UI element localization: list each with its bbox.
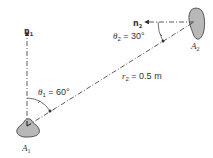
normal-n2-label: n2 bbox=[133, 19, 143, 29]
normal-n1-label: n1 bbox=[24, 27, 34, 37]
surface-a1-shape bbox=[17, 119, 40, 137]
angle2-arrowhead bbox=[162, 40, 165, 43]
angle1-arc bbox=[27, 98, 50, 111]
surface-a2-label: A2 bbox=[190, 41, 200, 52]
angle2-arc bbox=[158, 22, 163, 41]
surface-a1-label: A1 bbox=[21, 143, 31, 154]
angle1-label: θ1 = 60° bbox=[38, 87, 70, 98]
distance-line bbox=[27, 22, 194, 126]
radiation-view-factor-diagram: n1 n2 θ1 = 60° θ2 = 30° r2 = 0.5 m A1 A2 bbox=[0, 0, 213, 158]
angle1-arrowhead bbox=[49, 110, 52, 113]
angle2-label: θ2 = 30° bbox=[113, 31, 145, 42]
distance-label: r2 = 0.5 m bbox=[122, 71, 162, 82]
